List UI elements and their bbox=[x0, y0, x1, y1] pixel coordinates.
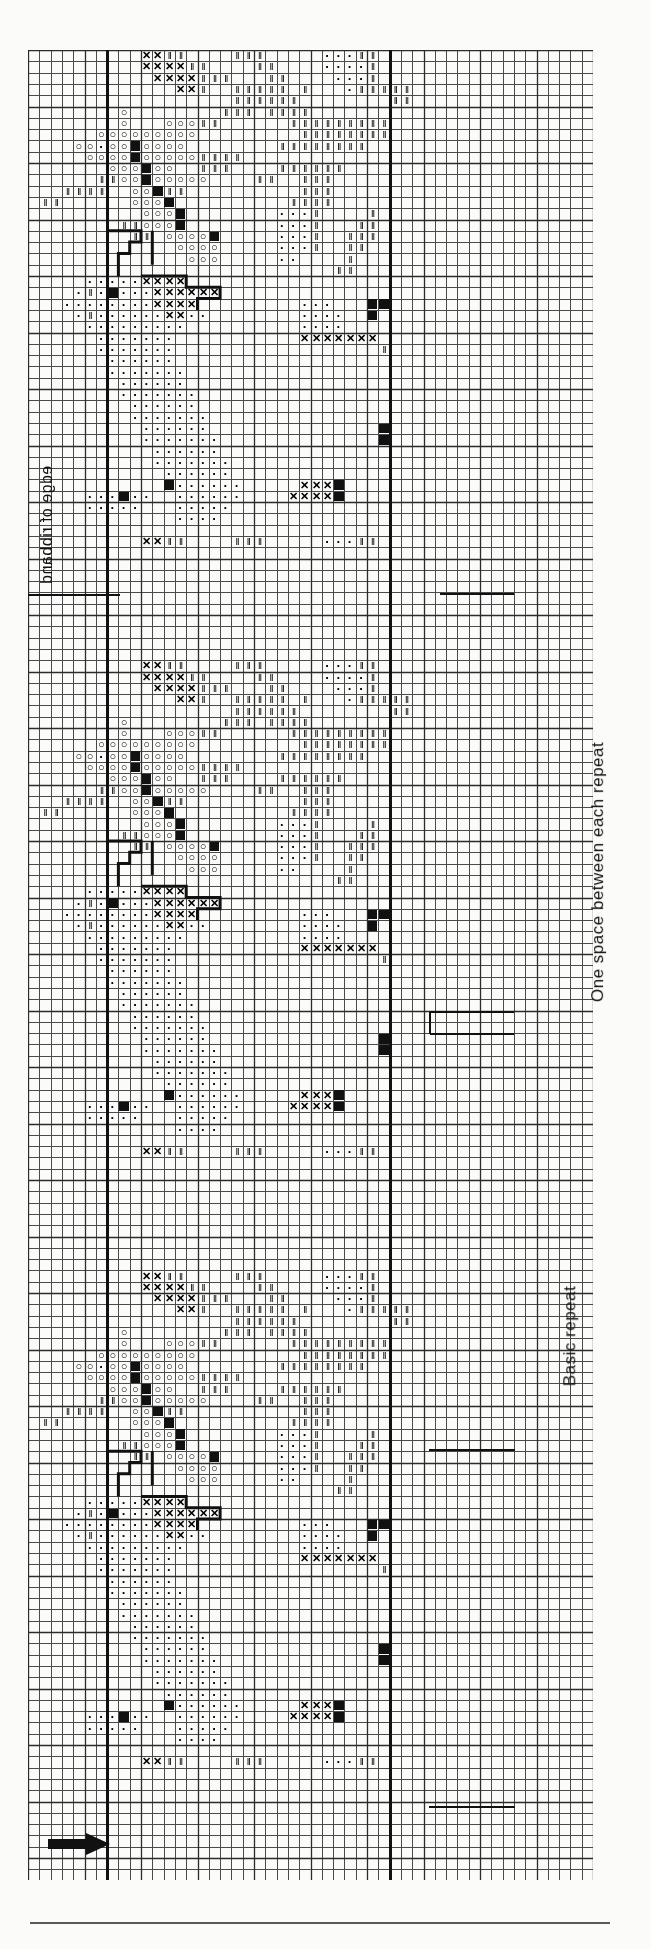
leader-rule-basic-a bbox=[429, 1449, 515, 1451]
start-arrow-icon bbox=[48, 1833, 110, 1855]
bottom-rule bbox=[30, 1922, 610, 1924]
motif-outlines bbox=[28, 50, 593, 1880]
knitting-chart-grid[interactable]: ✕✕‖‖‖‖‖···‖‖✕✕✕✕‖‖‖‖····‖✕✕✕✕‖‖‖‖‖···‖✕✕… bbox=[28, 50, 593, 1880]
leader-rule-onespace-d bbox=[430, 1033, 514, 1035]
chart-page: ✕✕‖‖‖‖‖···‖‖✕✕✕✕‖‖‖‖····‖✕✕✕✕‖‖‖‖‖···‖✕✕… bbox=[0, 0, 651, 1949]
leader-rule-onespace-b bbox=[430, 1011, 514, 1013]
label-basic-repeat: Basic repeat bbox=[560, 1286, 580, 1387]
leader-rule-onespace-c bbox=[429, 1012, 431, 1034]
leader-rule-edge-top bbox=[28, 594, 120, 596]
leader-rule-basic-b bbox=[429, 1806, 515, 1808]
label-one-space-between-each-repeat: One space between each repeat bbox=[588, 742, 608, 1002]
leader-rule-onespace-a bbox=[440, 593, 514, 595]
label-edge-of-ribband: edge of ribband bbox=[38, 466, 56, 585]
